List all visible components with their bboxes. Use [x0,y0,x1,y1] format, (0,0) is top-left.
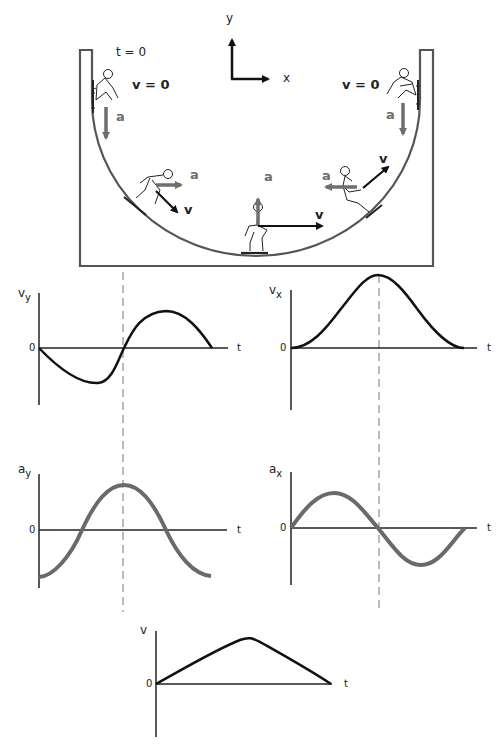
skater-bottom [241,203,268,254]
acc-label-top-left: a [116,110,125,123]
chart-vx [291,275,477,410]
chart-v-zero: 0 [146,679,152,689]
vel-label-bottom: v [315,208,323,221]
chart-ay-ylabel: ay [18,463,31,475]
vel-label-lower-left: v [184,203,192,216]
chart-ay-xlabel: t [237,525,241,535]
time-label: t = 0 [116,46,146,58]
skater-lower-left [124,170,173,216]
chart-ay [39,474,227,588]
chart-ax [291,472,477,585]
chart-vy-xlabel: t [237,343,241,353]
chart-v-ylabel: v [140,624,147,636]
acc-label-bottom: a [264,170,273,183]
chart-vy-zero: 0 [29,343,35,353]
velocity-arrow [156,191,177,212]
diagram-canvas [0,0,504,747]
chart-vy [39,293,228,405]
x-axis-label: x [283,72,290,84]
chart-vx-ylabel: vx [269,284,282,296]
velocity-zero-right: v = 0 [342,78,379,91]
chart-vy-ylabel: vy [18,287,31,299]
coordinate-axes-icon [231,40,268,79]
y-axis-label: y [226,12,233,24]
chart-ax-xlabel: t [487,523,491,533]
vel-label-lower-right: v [379,152,387,165]
velocity-arrow [363,167,388,188]
chart-ax-zero: 0 [280,523,286,533]
chart-vx-zero: 0 [280,343,286,353]
chart-ay-zero: 0 [29,525,35,535]
chart-ax-ylabel: ax [269,463,282,475]
velocity-zero-left: v = 0 [132,78,169,91]
chart-v [156,631,332,737]
chart-v-xlabel: t [344,679,348,689]
acc-label-lower-left: a [190,168,199,181]
acc-label-lower-right: a [322,169,331,182]
acc-label-top-right: a [386,108,395,121]
chart-vx-xlabel: t [487,343,491,353]
skater-top-left [92,70,118,114]
skater-lower-right [341,167,383,219]
